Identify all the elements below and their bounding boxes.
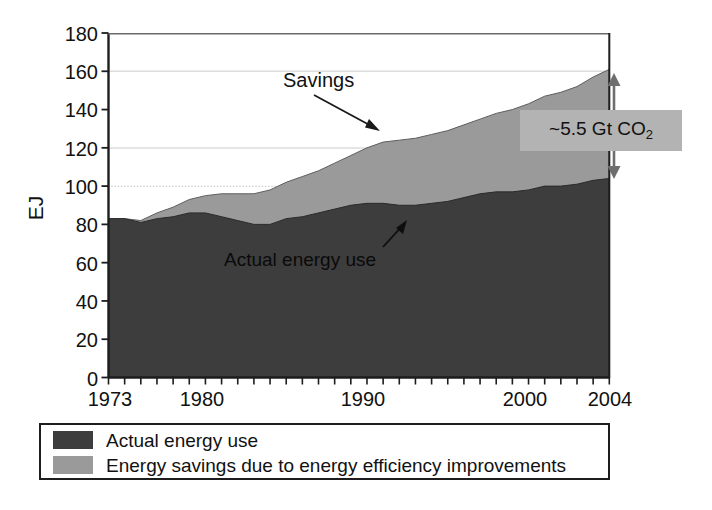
y-tick-label-140: 140 — [32, 100, 98, 120]
legend-swatch-energy-savings — [53, 456, 93, 474]
y-tick-label-180: 180 — [32, 24, 98, 44]
legend-item-energy-savings: Energy savings due to energy efficiency … — [53, 453, 566, 477]
x-tick-label-1990: 1990 — [327, 389, 399, 409]
y-tick-label-20: 20 — [32, 330, 98, 350]
y-tick-label-100: 100 — [32, 177, 98, 197]
actual-energy-annotation-label: Actual energy use — [224, 249, 376, 271]
x-tick-label-2000: 2000 — [489, 389, 561, 409]
savings-arrow-icon — [314, 95, 380, 131]
co2-annotation-subscript: 2 — [646, 127, 653, 142]
y-tick-label-60: 60 — [32, 254, 98, 274]
legend-item-actual-energy: Actual energy use — [53, 428, 258, 452]
co2-annotation-value: ~5.5 Gt CO — [549, 118, 646, 139]
y-tick-label-0: 0 — [32, 369, 98, 389]
y-tick-label-40: 40 — [32, 292, 98, 312]
x-tick-label-2004: 2004 — [574, 389, 646, 409]
co2-annotation-label: ~5.5 Gt CO2 — [520, 118, 682, 140]
y-tick-label-120: 120 — [32, 139, 98, 159]
legend-label-actual-energy: Actual energy use — [106, 431, 258, 450]
legend-swatch-actual-energy — [53, 431, 93, 449]
savings-annotation-label: Savings — [283, 69, 354, 92]
y-tick-label-160: 160 — [32, 62, 98, 82]
energy-savings-area-chart: EJ 180 160 140 120 100 80 60 40 20 0 197… — [0, 0, 712, 510]
y-tick-label-80: 80 — [32, 215, 98, 235]
chart-legend: Actual energy use Energy savings due to … — [39, 423, 610, 480]
x-tick-label-1980: 1980 — [166, 389, 238, 409]
legend-label-energy-savings: Energy savings due to energy efficiency … — [106, 456, 566, 475]
x-tick-label-1973: 1973 — [74, 389, 146, 409]
